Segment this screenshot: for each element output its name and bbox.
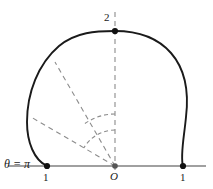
dashed-radius-upper: [55, 62, 115, 166]
left-value-label: 1: [43, 172, 49, 183]
polar-curve: [27, 31, 187, 166]
right-value-label: 1: [180, 172, 186, 183]
dashed-radius-lower: [31, 117, 115, 166]
theta-pi-label: θ = π: [4, 158, 30, 170]
point-top-max: [112, 28, 118, 34]
point-right-intercept: [180, 163, 186, 169]
top-value-label: 2: [104, 12, 110, 23]
point-origin: [112, 163, 118, 169]
angle-arc-outer: [83, 114, 115, 125]
figure-canvas: [0, 0, 213, 189]
point-left-intercept: [44, 163, 50, 169]
polar-curve-figure: θ = π 2 1 O 1: [0, 0, 213, 189]
origin-label: O: [110, 171, 118, 182]
